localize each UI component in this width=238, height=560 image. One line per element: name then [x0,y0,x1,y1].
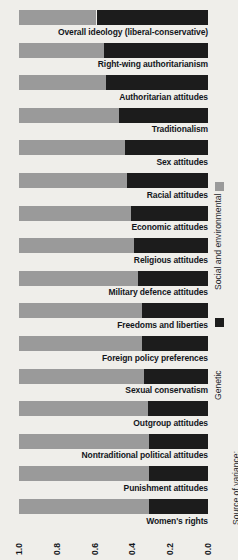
bar-row [19,466,208,481]
bar-row [19,336,208,351]
bar-row [19,173,208,188]
bar-segment-genetic [149,499,208,514]
bar-row [19,401,208,416]
bar-category-label: Traditionalism [152,124,208,134]
bar-segment-social-environmental [19,206,131,221]
bar-segment-genetic [127,173,208,188]
bar-segment-social-environmental [19,434,149,449]
bar-row [19,10,208,25]
bar-segment-social-environmental [19,43,104,58]
bar-segment-genetic [149,434,208,449]
legend-label-genetic[interactable]: Genetic [213,370,223,400]
bar-row [19,238,208,253]
bar-category-label: Racial attitudes [147,190,208,200]
bar-segment-social-environmental [19,75,106,90]
bar-segment-social-environmental [19,401,148,416]
bar-category-label: Nontraditional political attitudes [82,450,208,460]
bar-category-label: Freedoms and liberties [117,320,208,330]
bar-segment-social-environmental [19,173,127,188]
bar-row [19,303,208,318]
bar-segment-genetic [142,336,208,351]
bar-segment-social-environmental [19,336,142,351]
bar-segment-social-environmental [19,369,144,384]
bar-category-label: Overall ideology (liberal-conservative) [58,27,208,37]
x-axis-tick-label: 1.0 [14,538,24,560]
legend-title: Source of variance: [231,451,238,525]
bar-row [19,108,208,123]
bar-row [19,43,208,58]
bar-category-label: Women's rights [146,516,208,526]
bar-segment-social-environmental [19,271,138,286]
bar-category-label: Authoritarian attitudes [119,92,208,102]
bar-segment-genetic [119,108,208,123]
bar-category-label: Religious attitudes [134,255,208,265]
legend-key-genetic[interactable] [215,318,224,327]
bar-category-label: Sexual conservatism [125,385,208,395]
bar-segment-genetic [149,466,208,481]
bar-segment-social-environmental [19,466,149,481]
legend-key-social-environmental[interactable] [215,182,224,191]
bar-row [19,140,208,155]
bar-category-label: Sex attitudes [156,157,208,167]
bar-segment-genetic [106,75,208,90]
bar-segment-social-environmental [19,499,149,514]
chart-page: Overall ideology (liberal-conservative)R… [0,0,238,560]
bar-segment-social-environmental [19,303,142,318]
bar-segment-genetic [142,303,208,318]
bar-row [19,369,208,384]
bar-segment-genetic [104,43,208,58]
bar-segment-social-environmental [19,10,96,25]
bar-segment-genetic [144,369,208,384]
bar-category-label: Military defence attitudes [109,287,208,297]
bar-segment-social-environmental [19,108,119,123]
x-axis-tick-label: 0.8 [52,538,62,560]
bar-segment-genetic [97,10,209,25]
bar-row [19,75,208,90]
legend-label-social-environmental[interactable]: Social and environmental [213,194,223,291]
x-axis-tick-label: 0.6 [90,538,100,560]
bar-category-label: Right-wing authoritarianism [98,59,208,69]
bar-row [19,434,208,449]
bar-segment-genetic [138,271,208,286]
bar-category-label: Outgroup attitudes [133,418,208,428]
x-axis-tick-label: 0.4 [127,538,137,560]
bar-category-label: Economic attitudes [131,222,208,232]
x-axis-tick-label: 0.2 [165,538,175,560]
x-axis-tick-label: 0.0 [203,538,213,560]
bar-segment-social-environmental [19,140,125,155]
bar-category-label: Foreign policy preferences [102,353,208,363]
bar-row [19,271,208,286]
plot-area: Overall ideology (liberal-conservative)R… [0,0,238,560]
bar-segment-genetic [125,140,208,155]
bar-row [19,206,208,221]
bar-row [19,499,208,514]
bar-category-label: Punishment attitudes [124,483,208,493]
bar-segment-genetic [148,401,208,416]
bar-segment-genetic [131,206,208,221]
bar-segment-social-environmental [19,238,134,253]
bar-segment-genetic [134,238,208,253]
